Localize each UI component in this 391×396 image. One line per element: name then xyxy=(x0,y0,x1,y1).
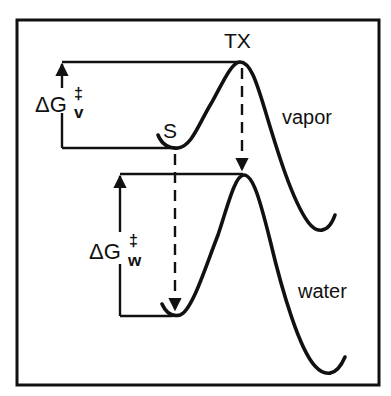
figure-frame xyxy=(17,20,379,385)
svg-text:w: w xyxy=(127,251,142,270)
svg-text:v: v xyxy=(74,103,84,122)
svg-text:ΔG: ΔG xyxy=(35,92,67,117)
substrate-label: S xyxy=(163,119,177,142)
vapor-label: vapor xyxy=(282,106,332,128)
svg-text:‡: ‡ xyxy=(129,232,138,249)
vapor-barrier-bracket xyxy=(62,62,240,148)
svg-text:‡: ‡ xyxy=(74,85,83,102)
delta-g-water-label: ΔG ‡ w xyxy=(89,232,142,270)
delta-g-vapor-label: ΔG ‡ v xyxy=(35,85,84,122)
water-energy-curve xyxy=(162,175,345,373)
energy-diagram: TX S vapor water ΔG ‡ v ΔG ‡ w xyxy=(0,0,391,396)
vapor-energy-curve xyxy=(158,62,335,230)
transition-state-label: TX xyxy=(224,29,251,52)
svg-text:ΔG: ΔG xyxy=(89,239,121,264)
water-barrier-bracket xyxy=(120,174,243,316)
water-label: water xyxy=(297,280,347,302)
